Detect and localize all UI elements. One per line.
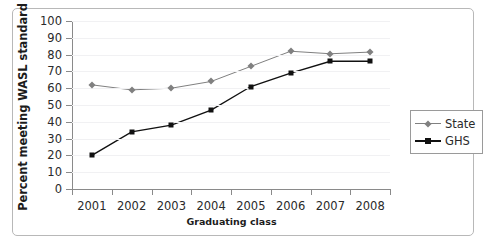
- data-point-ghs: [288, 71, 293, 76]
- y-tick-label: 10: [22, 165, 62, 179]
- y-tick-label: 0: [22, 182, 62, 196]
- gridline: [72, 155, 390, 156]
- legend-marker-diamond-icon: [424, 120, 431, 127]
- x-tick-mark: [311, 189, 312, 195]
- y-tick-label: 80: [22, 48, 62, 62]
- gridline: [72, 21, 390, 22]
- data-point-ghs: [328, 59, 333, 64]
- y-tick-label: 60: [22, 81, 62, 95]
- gridline: [72, 105, 390, 106]
- y-tick-mark: [66, 71, 72, 72]
- data-point-ghs: [129, 129, 134, 134]
- gridline: [72, 139, 390, 140]
- legend-marker-square-icon: [425, 138, 431, 144]
- x-tick-mark: [152, 189, 153, 195]
- y-tick-label: 50: [22, 98, 62, 112]
- x-axis-title: Graduating class: [72, 216, 391, 227]
- y-tick-label: 90: [22, 31, 62, 45]
- y-tick-mark: [66, 122, 72, 123]
- legend-label: State: [445, 117, 475, 131]
- x-tick-mark: [390, 189, 391, 195]
- y-tick-mark: [66, 105, 72, 106]
- data-point-ghs: [368, 59, 373, 64]
- legend-marker-icon: [415, 135, 441, 147]
- x-tick-mark: [231, 189, 232, 195]
- y-tick-mark: [66, 155, 72, 156]
- y-tick-mark: [66, 139, 72, 140]
- y-axis-tick-labels: 0102030405060708090100: [20, 0, 62, 250]
- gridline: [72, 38, 390, 39]
- y-tick-mark: [66, 38, 72, 39]
- gridline: [72, 71, 390, 72]
- gridline: [72, 88, 390, 89]
- legend-item-ghs[interactable]: GHS: [415, 132, 475, 149]
- x-tick-mark: [112, 189, 113, 195]
- y-tick-mark: [66, 21, 72, 22]
- gridline: [72, 172, 390, 173]
- y-tick-mark: [66, 88, 72, 89]
- y-tick-mark: [66, 55, 72, 56]
- legend-label: GHS: [445, 134, 470, 148]
- data-point-ghs: [169, 123, 174, 128]
- x-tick-mark: [350, 189, 351, 195]
- gridline: [72, 122, 390, 123]
- y-tick-label: 70: [22, 64, 62, 78]
- data-point-ghs: [248, 84, 253, 89]
- legend-marker-icon: [415, 118, 441, 130]
- data-point-ghs: [89, 153, 94, 158]
- x-tick-mark: [191, 189, 192, 195]
- x-tick-mark: [271, 189, 272, 195]
- series-line-ghs: [92, 61, 370, 155]
- gridline: [72, 55, 390, 56]
- y-tick-label: 40: [22, 115, 62, 129]
- y-tick-label: 100: [22, 14, 62, 28]
- data-point-ghs: [209, 108, 214, 113]
- x-tick-mark: [72, 189, 73, 195]
- chart-figure: Percent meeting WASL standard 0102030405…: [0, 0, 487, 250]
- y-tick-mark: [66, 172, 72, 173]
- chart-legend: StateGHS: [410, 110, 483, 154]
- x-tick-label: 2008: [345, 199, 395, 213]
- legend-item-state[interactable]: State: [415, 115, 475, 132]
- y-tick-label: 20: [22, 148, 62, 162]
- plot-area: [72, 21, 390, 189]
- y-tick-label: 30: [22, 132, 62, 146]
